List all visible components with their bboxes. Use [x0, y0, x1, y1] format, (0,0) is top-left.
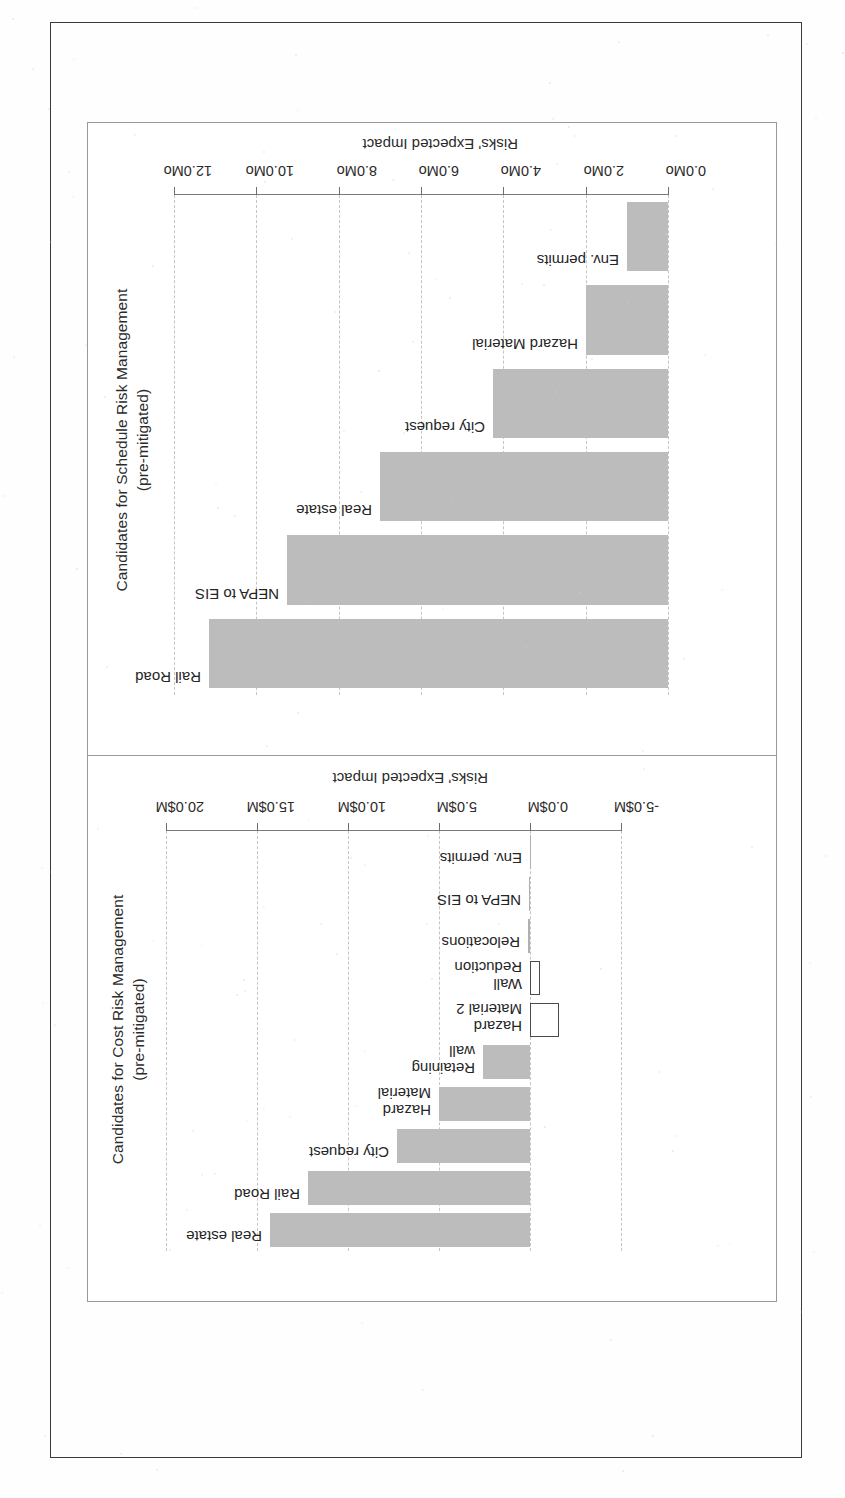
schedule-plot-area: [174, 195, 668, 695]
scan-speck: [214, 1173, 216, 1175]
scan-speck: [1, 1292, 3, 1294]
scan-speck: [675, 135, 677, 137]
scan-speck: [67, 1267, 69, 1269]
bar: [287, 535, 668, 604]
scan-speck: [4, 495, 6, 497]
scan-speck: [263, 906, 265, 908]
scan-speck: [806, 43, 808, 45]
scan-speck: [39, 1224, 41, 1226]
axis-tick: [348, 823, 349, 831]
axis-tick: [339, 187, 340, 195]
bar-category-label: wall: [449, 1043, 475, 1060]
scan-speck: [378, 370, 380, 372]
axis-tick: [174, 187, 175, 195]
bar-column: [174, 619, 668, 688]
scan-speck: [54, 1024, 56, 1026]
bar: [530, 835, 531, 870]
scan-speck: [217, 507, 219, 509]
bar: [530, 961, 540, 996]
scan-speck: [810, 1096, 812, 1098]
axis-tick: [621, 823, 622, 831]
bar: [397, 1129, 530, 1164]
bar: [209, 619, 668, 688]
axis-tick-label: -5.0$M: [614, 799, 659, 815]
axis-tick: [530, 823, 531, 831]
bar: [439, 1087, 530, 1122]
cost-chart: Candidates for Cost Risk Management(pre-…: [88, 756, 777, 1302]
scan-speck: [591, 358, 593, 360]
bar-category-label: Hazard: [474, 1018, 522, 1035]
bar-category-label: Relocations: [441, 934, 519, 951]
bar-category-label: Hazard Material: [472, 336, 578, 353]
scan-speck: [244, 990, 246, 992]
schedule-chart: Candidates for Schedule Risk Management(…: [88, 123, 777, 756]
bar-category-label: Rail Road: [234, 1186, 300, 1203]
bar-column: [166, 1129, 621, 1164]
bar-category-label: Real estate: [186, 1228, 262, 1245]
bar-category-label: NEPA to EIS: [195, 586, 279, 603]
scan-speck: [201, 1174, 203, 1176]
scan-speck: [72, 196, 74, 198]
scan-speck: [729, 1243, 731, 1245]
schedule-chart-title: Candidates for Schedule Risk Management(…: [112, 123, 154, 756]
gridline: [621, 831, 622, 1251]
scan-speck: [361, 1322, 363, 1324]
axis-tick-label: 10.0$M: [338, 799, 386, 815]
schedule-bars: [174, 195, 668, 695]
scan-speck: [842, 52, 844, 54]
scan-speck: [825, 855, 827, 857]
gridline: [668, 195, 669, 695]
scan-speck: [403, 432, 405, 434]
axis-tick: [586, 187, 587, 195]
bar-category-label: Real estate: [296, 502, 372, 519]
axis-tick-label: 10.0Mo: [246, 163, 294, 179]
scan-speck: [721, 589, 723, 591]
bar-category-label: Material 2: [456, 1001, 522, 1018]
scan-speck: [85, 344, 87, 346]
scan-speck: [266, 745, 268, 747]
scan-speck: [498, 923, 500, 925]
scan-speck: [192, 1130, 194, 1132]
scan-speck: [294, 1039, 296, 1041]
scan-speck: [343, 430, 345, 432]
scan-speck: [321, 646, 323, 648]
scan-speck: [120, 1453, 122, 1455]
bar-column: [166, 1045, 621, 1080]
bar: [627, 202, 668, 271]
axis-tick: [257, 823, 258, 831]
scan-speck: [350, 857, 352, 859]
scan-speck: [97, 828, 99, 830]
scan-speck: [196, 7, 198, 9]
scan-speck: [600, 968, 602, 970]
scan-speck: [813, 1251, 815, 1253]
scan-speck: [44, 1435, 46, 1437]
scan-speck: [449, 297, 451, 299]
axis-tick-label: 6.0Mo: [419, 163, 459, 179]
scan-speck: [528, 885, 530, 887]
scan-speck: [120, 533, 122, 535]
bar-column: [166, 919, 621, 954]
scan-speck: [289, 1116, 291, 1118]
bar-column: [166, 877, 621, 912]
scan-speck: [182, 802, 184, 804]
bar: [586, 285, 668, 354]
scan-speck: [408, 252, 410, 254]
scan-speck: [521, 283, 523, 285]
bar: [528, 919, 530, 954]
axis-tick-label: 8.0Mo: [336, 163, 376, 179]
bar-column: [166, 1003, 621, 1038]
bar-category-label: Wall: [493, 976, 522, 993]
scan-speck: [189, 447, 191, 449]
scan-speck: [531, 574, 533, 576]
axis-tick-label: 20.0$M: [156, 799, 204, 815]
bar-column: [166, 961, 621, 996]
scan-speck: [622, 1470, 624, 1472]
bar-category-label: Rail Road: [135, 669, 201, 686]
axis-tick: [668, 187, 669, 195]
bar-category-label: Hazard: [383, 1102, 431, 1119]
bar: [483, 1045, 530, 1080]
cost-chart-title: Candidates for Cost Risk Management(pre-…: [108, 756, 150, 1302]
scan-speck: [106, 666, 108, 668]
bar-category-label: Reduction: [454, 959, 522, 976]
bar-category-label: NEPA to EIS: [437, 892, 521, 909]
